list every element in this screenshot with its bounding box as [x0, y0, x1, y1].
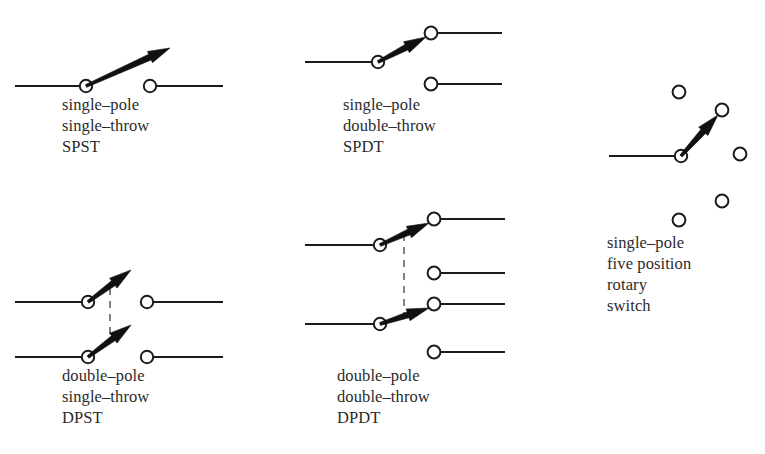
caption-line: single–pole: [343, 95, 420, 114]
upper-switch-blade: [87, 270, 131, 303]
output-terminal-2: [428, 267, 441, 280]
position-1-terminal: [673, 86, 686, 99]
caption-dpdt: double–poledouble–throwDPDT: [337, 366, 430, 427]
caption-line: five position: [607, 254, 691, 273]
caption-line: rotary: [607, 275, 648, 294]
caption-line: single–throw: [62, 387, 149, 406]
caption-line: DPDT: [337, 408, 381, 427]
upper-output-terminal: [425, 27, 438, 40]
caption-line: single–throw: [62, 116, 149, 135]
diagram-canvas: single–polesingle–throwSPSTsingle–poledo…: [0, 0, 765, 454]
switch-symbol-spst: single–polesingle–throwSPST: [15, 48, 223, 156]
caption-spdt: single–poledouble–throwSPDT: [343, 95, 436, 156]
rotor-blade: [680, 115, 718, 157]
switch-symbol-rotary: single–polefive positionrotaryswitch: [607, 86, 746, 315]
caption-spst: single–polesingle–throwSPST: [62, 95, 149, 156]
caption-line: DPST: [62, 408, 103, 427]
lower-output-terminal: [425, 78, 438, 91]
position-4-terminal: [716, 195, 729, 208]
caption-line: SPST: [62, 137, 100, 156]
caption-rotary: single–polefive positionrotaryswitch: [607, 233, 691, 315]
output-terminal-1: [428, 213, 441, 226]
caption-line: switch: [607, 296, 651, 315]
caption-line: double–throw: [343, 116, 436, 135]
lower-switch-blade: [87, 325, 131, 358]
lower-output-terminal: [141, 351, 153, 363]
switch-symbol-spdt: single–poledouble–throwSPDT: [305, 27, 502, 156]
caption-line: single–pole: [62, 95, 139, 114]
switch-blade: [377, 37, 426, 63]
upper-output-terminal: [141, 296, 153, 308]
output-terminal-3: [428, 298, 441, 311]
position-3-terminal: [734, 148, 747, 161]
switch-symbol-dpdt: double–poledouble–throwDPDT: [305, 213, 505, 427]
output-terminal: [144, 80, 156, 92]
upper-switch-blade: [379, 223, 429, 246]
caption-line: SPDT: [343, 137, 384, 156]
caption-line: double–throw: [337, 387, 430, 406]
output-terminal-4: [428, 346, 441, 359]
switch-symbols-diagram: single–polesingle–throwSPSTsingle–poledo…: [0, 0, 765, 454]
position-5-terminal: [673, 214, 686, 227]
position-2-terminal: [716, 104, 729, 117]
caption-dpst: double–polesingle–throwDPST: [62, 366, 149, 427]
switch-blade: [85, 48, 170, 87]
lower-switch-blade: [380, 308, 429, 325]
switch-symbol-dpst: double–polesingle–throwDPST: [15, 270, 223, 427]
caption-line: single–pole: [607, 233, 684, 252]
caption-line: double–pole: [337, 366, 420, 385]
caption-line: double–pole: [62, 366, 145, 385]
